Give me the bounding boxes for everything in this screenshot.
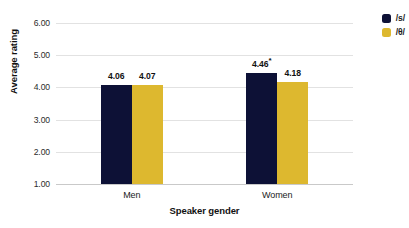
y-axis-tick-label: 3.00 bbox=[34, 115, 50, 125]
plot-area: 6.005.004.003.002.001.004.064.07Men4.46*… bbox=[56, 23, 353, 184]
y-axis-title: Average rating bbox=[8, 7, 19, 117]
bar-rect[interactable] bbox=[132, 85, 163, 184]
bar-chart: Average rating 6.005.004.003.002.001.004… bbox=[0, 0, 409, 228]
legend-item-0[interactable]: /s/ bbox=[382, 13, 405, 23]
x-axis-tick-label: Men bbox=[123, 190, 140, 200]
significance-marker: * bbox=[268, 56, 271, 65]
legend-label: /s/ bbox=[396, 13, 405, 23]
x-axis-title: Speaker gender bbox=[56, 205, 353, 216]
bar-rect[interactable] bbox=[101, 85, 132, 184]
legend-label: /θ/ bbox=[396, 27, 405, 37]
gridline bbox=[56, 184, 353, 185]
y-axis-tick-label: 2.00 bbox=[34, 147, 50, 157]
y-axis-tick-label: 5.00 bbox=[34, 50, 50, 60]
bar-value-label: 4.06 bbox=[108, 71, 124, 81]
x-axis-tick-label: Women bbox=[262, 190, 292, 200]
bar-women-series-1[interactable]: 4.18 bbox=[277, 23, 308, 184]
y-axis-tick-label: 4.00 bbox=[34, 82, 50, 92]
bar-group: 4.46*4.18Women bbox=[246, 23, 308, 184]
bar-men-series-0[interactable]: 4.06 bbox=[101, 23, 132, 184]
legend-item-1[interactable]: /θ/ bbox=[382, 27, 405, 37]
bar-women-series-0[interactable]: 4.46* bbox=[246, 23, 277, 184]
bar-value-label: 4.07 bbox=[139, 71, 155, 81]
bar-value-label: 4.46* bbox=[252, 59, 271, 69]
legend-swatch-icon bbox=[382, 28, 391, 37]
bar-group: 4.064.07Men bbox=[101, 23, 163, 184]
y-axis-tick-label: 1.00 bbox=[34, 179, 50, 189]
bar-rect[interactable] bbox=[246, 73, 277, 184]
legend-swatch-icon bbox=[382, 14, 391, 23]
bar-value-label: 4.18 bbox=[285, 68, 301, 78]
bar-men-series-1[interactable]: 4.07 bbox=[132, 23, 163, 184]
chart-legend: /s//θ/ bbox=[382, 13, 405, 37]
y-axis-tick-label: 6.00 bbox=[34, 18, 50, 28]
bar-rect[interactable] bbox=[277, 82, 308, 184]
